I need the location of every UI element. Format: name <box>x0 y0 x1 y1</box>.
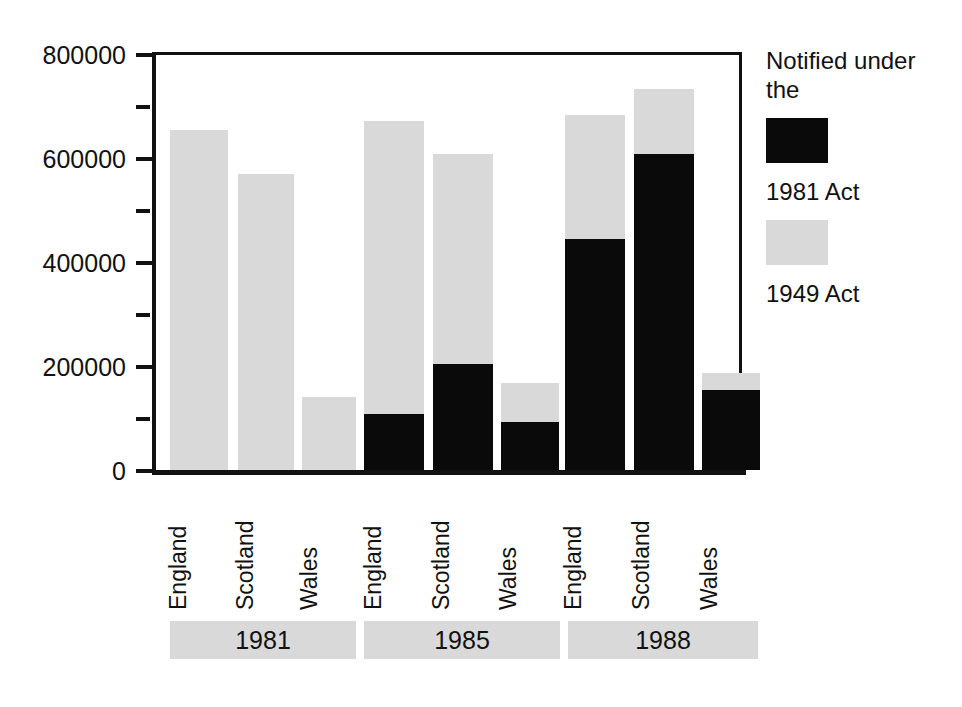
x-label-1981-wales: Wales <box>298 547 321 610</box>
y-tick-label-800000: 800000 <box>43 43 126 68</box>
legend-title: Notified under the <box>766 46 931 104</box>
bar-segment-1981act <box>433 364 493 470</box>
y-tick-label-0: 0 <box>112 459 126 484</box>
year-group-bands: 1981 1985 1988 <box>156 621 742 661</box>
bar-segment-1981act <box>364 414 424 470</box>
legend: Notified under the 1981 Act 1949 Act <box>766 46 956 308</box>
x-label-1988-wales: Wales <box>698 547 721 610</box>
y-tick-major-800000 <box>136 53 156 57</box>
bar-1985-wales[interactable] <box>501 383 559 470</box>
bar-1988-scotland[interactable] <box>634 89 694 470</box>
x-label-1988-scotland: Scotland <box>630 520 653 610</box>
x-label-1985-england: England <box>362 526 385 610</box>
bar-segment-1981act <box>501 422 559 470</box>
y-axis-labels: 800000 600000 400000 200000 0 <box>0 0 126 707</box>
x-axis-category-labels: England Scotland Wales England Scotland … <box>156 485 742 610</box>
y-tick-label-200000: 200000 <box>43 355 126 380</box>
y-tick-minor-700000 <box>136 105 150 109</box>
legend-label-1949-act: 1949 Act <box>766 280 956 308</box>
bar-segment-1949act <box>634 89 694 154</box>
y-tick-major-200000 <box>136 365 156 369</box>
bar-segment-1981act <box>565 239 625 470</box>
x-label-1981-england: England <box>167 526 190 610</box>
bar-segment-1949act <box>433 154 493 364</box>
y-tick-minor-500000 <box>136 209 150 213</box>
y-tick-major-400000 <box>136 261 156 265</box>
legend-label-1981-act: 1981 Act <box>766 178 956 206</box>
x-label-1988-england: England <box>562 526 585 610</box>
y-tick-label-400000: 400000 <box>43 251 126 276</box>
bar-segment-1949act <box>238 174 294 470</box>
year-band-1981: 1981 <box>170 621 356 659</box>
y-tick-minor-300000 <box>136 313 150 317</box>
bars-area <box>156 55 742 470</box>
legend-swatch-1981-act <box>766 118 828 163</box>
legend-swatch-1949-act <box>766 220 828 265</box>
bar-1981-wales[interactable] <box>302 397 356 470</box>
bar-segment-1981act <box>702 390 760 470</box>
bar-segment-1949act <box>501 383 559 422</box>
bar-segment-1949act <box>364 121 424 414</box>
x-label-1985-wales: Wales <box>497 547 520 610</box>
year-band-1988: 1988 <box>568 621 758 659</box>
y-tick-major-600000 <box>136 157 156 161</box>
chart-canvas: 800000 600000 400000 200000 0 <box>0 0 962 707</box>
bar-1985-scotland[interactable] <box>433 154 493 470</box>
bar-segment-1949act <box>302 397 356 470</box>
year-band-1985: 1985 <box>364 621 560 659</box>
bar-1988-england[interactable] <box>565 115 625 470</box>
x-label-1981-scotland: Scotland <box>234 520 257 610</box>
bar-segment-1981act <box>634 154 694 470</box>
x-axis-baseline <box>152 470 746 475</box>
x-label-1985-scotland: Scotland <box>430 520 453 610</box>
bar-segment-1949act <box>170 130 228 470</box>
bar-1988-wales[interactable] <box>702 373 760 470</box>
y-tick-label-600000: 600000 <box>43 147 126 172</box>
bar-1985-england[interactable] <box>364 121 424 470</box>
bar-1981-england[interactable] <box>170 130 228 470</box>
bar-1981-scotland[interactable] <box>238 174 294 470</box>
bar-segment-1949act <box>565 115 625 239</box>
bar-segment-1949act <box>702 373 760 390</box>
y-tick-minor-100000 <box>136 417 150 421</box>
